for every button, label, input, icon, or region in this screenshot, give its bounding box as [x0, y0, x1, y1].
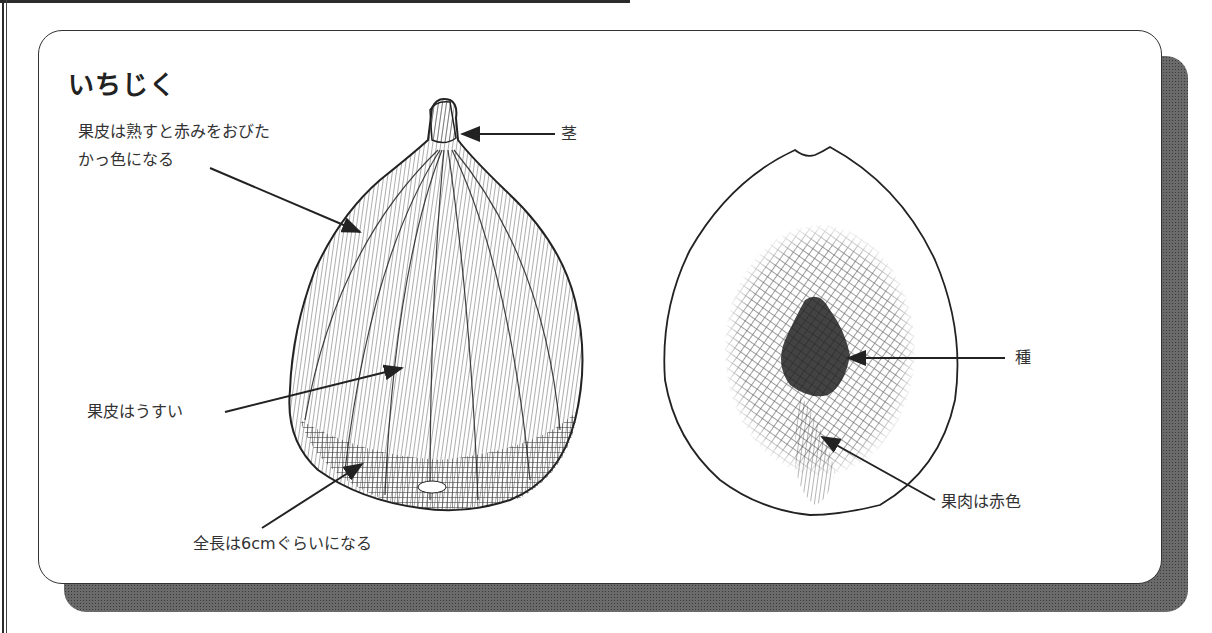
- label-seeds: 種: [1015, 346, 1031, 370]
- label-skin-color-line2: かっ色になる: [78, 148, 174, 172]
- label-skin-thin: 果皮はうすい: [87, 400, 183, 424]
- label-skin-color-line1: 果皮は熟すと赤みをおびた: [78, 120, 270, 144]
- label-flesh: 果肉は赤色: [941, 490, 1021, 514]
- label-length: 全長は6cmぐらいになる: [193, 532, 372, 556]
- whole-fig-icon: [289, 99, 582, 510]
- length-pointer: [262, 464, 362, 528]
- skin-color-pointer: [210, 168, 360, 232]
- label-stem: 茎: [561, 122, 577, 146]
- fig-illustrations: [0, 0, 1212, 633]
- fig-cross-section-icon: [664, 147, 957, 515]
- diagram-title: いちじく: [68, 64, 176, 101]
